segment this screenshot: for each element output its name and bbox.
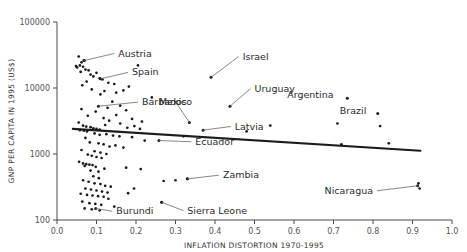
data-point [139, 128, 142, 131]
data-point [102, 195, 105, 198]
data-point [126, 126, 129, 129]
data-point [91, 164, 94, 167]
data-point [379, 125, 382, 128]
data-point [133, 125, 136, 128]
data-point [84, 137, 87, 140]
leader-line-austria [84, 54, 114, 61]
data-point [387, 142, 390, 145]
leader-line-nicaragua [377, 186, 418, 191]
data-point [95, 189, 98, 192]
data-point [85, 125, 88, 128]
data-point [86, 153, 89, 156]
data-point [107, 81, 110, 84]
data-point [92, 75, 95, 78]
annotation-label-nicaragua: Nicaragua [325, 185, 373, 196]
data-point [95, 156, 98, 159]
data-point [104, 184, 107, 187]
data-point [108, 145, 111, 148]
data-point [107, 197, 110, 200]
data-point [83, 165, 86, 168]
data-point [84, 187, 87, 190]
data-point [90, 154, 93, 157]
x-axis-title: INFLATION DISTORTION 1970-1995 [184, 241, 324, 250]
data-point [97, 195, 100, 198]
data-point [85, 80, 88, 83]
data-point [84, 68, 87, 71]
data-point [128, 85, 131, 88]
data-point [78, 161, 81, 164]
data-point [418, 187, 421, 190]
data-point [87, 180, 90, 183]
data-point [103, 90, 106, 93]
data-point [125, 166, 128, 169]
data-point [102, 117, 105, 120]
data-point [122, 146, 125, 149]
data-point [336, 122, 339, 125]
x-tick-label: 0.5 [248, 227, 261, 236]
leader-line-ecuador [159, 141, 191, 142]
data-point [88, 163, 91, 166]
data-point [93, 132, 96, 135]
data-point-argentina [346, 97, 349, 100]
data-point [80, 149, 83, 152]
data-point [139, 168, 142, 171]
leader-line-barbados [98, 102, 137, 106]
annotation-label-austria: Austria [118, 48, 152, 59]
data-point [94, 203, 97, 206]
data-point [80, 61, 83, 64]
data-point [95, 71, 98, 74]
data-point [100, 157, 103, 160]
data-point [269, 124, 272, 127]
data-point [89, 126, 92, 129]
data-point [133, 187, 136, 190]
x-tick-label: 0.4 [209, 227, 222, 236]
data-point [83, 207, 86, 210]
leader-line-uruguay [230, 89, 250, 107]
data-point [99, 183, 102, 186]
leader-line-burundi [96, 208, 113, 211]
data-point [101, 190, 104, 193]
data-point [90, 208, 93, 211]
chart-canvas: 100100010000100000 0.00.10.20.30.40.50.6… [0, 0, 467, 252]
annotation-label-latvia: Latvia [235, 121, 264, 132]
data-point [91, 194, 94, 197]
annotation-label-brazil: Brazil [340, 105, 367, 116]
data-point [114, 144, 117, 147]
data-point [93, 150, 96, 153]
data-point [82, 162, 85, 165]
data-point [105, 133, 108, 136]
data-point [89, 73, 92, 76]
data-point [98, 134, 101, 137]
data-point [81, 84, 84, 87]
data-point [102, 143, 105, 146]
data-point [79, 64, 82, 67]
data-point [174, 179, 177, 182]
data-point [77, 121, 80, 124]
data-point [90, 88, 93, 91]
leader-line-latvia [203, 127, 231, 131]
scatter-chart: 100100010000100000 0.00.10.20.30.40.50.6… [0, 0, 467, 252]
data-point [109, 185, 112, 188]
x-tick-label: 0.0 [51, 227, 64, 236]
data-point [98, 177, 101, 180]
data-point [100, 203, 103, 206]
data-point [131, 118, 134, 121]
annotation-label-spain: Spain [132, 66, 159, 77]
data-point [92, 175, 95, 178]
leader-line-sierra-leone [162, 202, 184, 210]
annotation-label-zambia: Zambia [223, 169, 259, 180]
data-point [125, 109, 128, 112]
annotation-label-ecuador: Ecuador [195, 136, 234, 147]
x-axis-ticks: 0.00.10.20.30.40.50.60.70.80.91.0 [51, 220, 459, 236]
data-point [88, 141, 91, 144]
data-point [90, 188, 93, 191]
data-point [111, 100, 114, 103]
data-point [88, 202, 91, 205]
leader-line-zambia [187, 175, 219, 179]
annotation-labels: AustriaSpainBarbadosMexicoIsraelUruguayA… [116, 48, 373, 217]
annotation-label-argentina: Argentina [287, 89, 333, 100]
data-point [87, 69, 90, 72]
leader-line-spain [100, 72, 128, 78]
x-tick-label: 0.7 [327, 227, 340, 236]
data-point [162, 180, 165, 183]
